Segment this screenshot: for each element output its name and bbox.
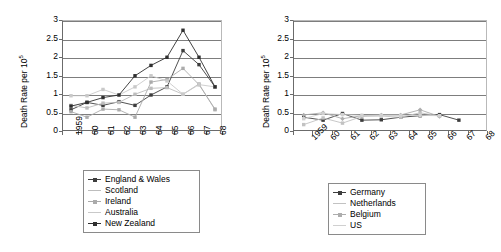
series-marker — [213, 85, 216, 88]
series-marker — [438, 114, 441, 117]
series-line — [71, 30, 215, 106]
x-axis-tick-mark — [293, 131, 294, 135]
series-marker — [380, 114, 383, 117]
series-marker — [399, 114, 402, 117]
y-axis-tick-mark — [290, 94, 293, 95]
y-axis-tick-label: 0.5 — [36, 107, 58, 117]
legend-item[interactable]: Netherlands — [333, 198, 420, 209]
series-marker — [302, 123, 305, 126]
series-marker — [321, 116, 324, 119]
legend-swatch-icon — [333, 221, 346, 230]
legend-swatch-icon — [88, 208, 101, 217]
series-marker — [165, 79, 168, 82]
legend-item[interactable]: England & Wales — [88, 174, 194, 185]
series-marker — [213, 107, 216, 110]
legend-item-label: US — [350, 220, 362, 231]
y-axis-tick-mark — [290, 57, 293, 58]
series-marker — [85, 106, 88, 109]
x-axis-tick-label: 65 — [170, 126, 180, 135]
series-marker — [69, 104, 72, 107]
series-marker — [85, 101, 88, 104]
x-axis-tick-label: 68 — [218, 126, 228, 135]
series-marker — [165, 86, 168, 89]
series-marker — [302, 117, 305, 120]
legend-swatch-icon — [333, 199, 346, 208]
y-axis-title-left: Death Rate per 105 — [18, 55, 29, 128]
series-marker — [341, 121, 344, 124]
series-marker — [117, 93, 120, 96]
y-axis-tick-label: 1 — [36, 88, 58, 98]
y-axis-tick-mark — [290, 39, 293, 40]
legend-item[interactable]: Ireland — [88, 196, 194, 207]
legend-item[interactable]: New Zealand — [88, 218, 194, 229]
y-axis-tick-label: 0 — [267, 125, 289, 135]
series-marker — [133, 85, 136, 88]
legend-item-label: Belgium — [350, 209, 381, 220]
y-axis-tick-label: 3 — [36, 14, 58, 24]
x-axis-tick-label: 61 — [106, 126, 116, 135]
legend-item[interactable]: Scotland — [88, 185, 194, 196]
x-axis-tick-label: 1959 — [74, 116, 84, 135]
series-marker — [85, 116, 88, 119]
series-marker — [197, 63, 200, 66]
series-marker — [133, 104, 136, 107]
x-axis-tick-label: 63 — [138, 126, 148, 135]
y-axis-tick-label: 2 — [267, 51, 289, 61]
series-line — [71, 68, 215, 117]
legend-item[interactable]: Australia — [88, 207, 194, 218]
series-marker — [181, 49, 184, 52]
x-axis-tick-mark — [62, 131, 63, 135]
series-marker — [181, 67, 184, 70]
legend-swatch-icon — [88, 219, 101, 228]
y-axis-tick-label: 2 — [36, 51, 58, 61]
legend-item-label: England & Wales — [105, 174, 170, 185]
series-marker — [101, 96, 104, 99]
y-axis-tick-label: 1.5 — [36, 70, 58, 80]
legend-item-label: Scotland — [105, 185, 138, 196]
legend-swatch-icon — [333, 210, 346, 219]
legend-swatch-icon — [333, 188, 346, 197]
series-marker — [101, 107, 104, 110]
series-marker — [149, 87, 152, 90]
series-marker — [197, 56, 200, 59]
y-axis-tick-label: 1 — [267, 88, 289, 98]
x-axis-tick-label: 67 — [202, 126, 212, 135]
chart-panel-left: Death Rate per 105 England & WalesScotla… — [0, 0, 250, 252]
y-axis-tick-mark — [59, 39, 62, 40]
x-axis-tick-label: 66 — [186, 126, 196, 135]
series-marker — [69, 110, 72, 113]
y-axis-tick-mark — [290, 20, 293, 21]
series-marker — [341, 113, 344, 116]
y-axis-tick-label: 1.5 — [267, 70, 289, 80]
series-marker — [69, 94, 72, 97]
legend-item-label: Netherlands — [350, 198, 396, 209]
legend-swatch-icon — [88, 186, 101, 195]
series-marker — [181, 29, 184, 32]
series-marker — [165, 56, 168, 59]
legend-left: England & WalesScotlandIrelandAustraliaN… — [83, 170, 200, 233]
legend-item[interactable]: Germany — [333, 187, 420, 198]
series-marker — [101, 88, 104, 91]
series-marker — [133, 74, 136, 77]
series-marker — [360, 114, 363, 117]
legend-item-label: Germany — [350, 187, 385, 198]
series-marker — [418, 114, 421, 117]
chart-panel-right: Death Rate per 105 GermanyNetherlandsBel… — [250, 0, 501, 252]
x-axis-tick-label: 64 — [154, 126, 164, 135]
legend-item-label: Ireland — [105, 196, 131, 207]
series-marker — [85, 94, 88, 97]
legend-item[interactable]: US — [333, 220, 420, 231]
legend-item-label: New Zealand — [105, 218, 155, 229]
series-marker — [101, 101, 104, 104]
y-axis-tick-label: 0.5 — [267, 107, 289, 117]
series-marker — [133, 93, 136, 96]
legend-item[interactable]: Belgium — [333, 209, 420, 220]
legend-swatch-icon — [88, 175, 101, 184]
x-axis-tick-label: 62 — [122, 126, 132, 135]
series-marker — [360, 118, 363, 121]
series-marker — [181, 93, 184, 96]
series-marker — [149, 93, 152, 96]
y-axis-tick-mark — [59, 76, 62, 77]
series-marker — [457, 118, 460, 121]
legend-swatch-icon — [88, 197, 101, 206]
